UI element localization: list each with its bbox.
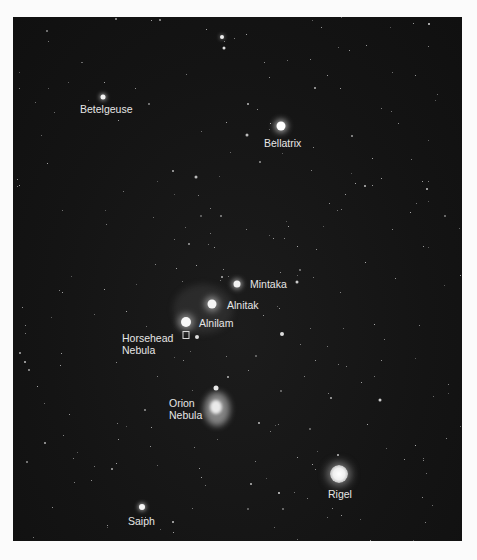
label-bellatrix: Bellatrix	[264, 137, 301, 149]
star-alnitak	[208, 300, 217, 309]
star-rigel	[330, 465, 348, 483]
orion-star-field-photo: Betelgeuse Bellatrix Mintaka Alnitak Aln…	[13, 17, 462, 541]
label-orion-nebula-line2: Nebula	[169, 409, 202, 421]
star-mintaka	[234, 281, 241, 288]
label-orion-nebula-line1: Orion	[169, 397, 195, 409]
label-horsehead-line2: Nebula	[122, 344, 155, 356]
star-near-horsehead	[195, 335, 199, 339]
star-bellatrix	[277, 122, 286, 131]
star-minor	[296, 281, 299, 284]
star-saiph	[139, 504, 145, 510]
orion-nebula-core	[210, 400, 222, 414]
star-right-of-belt	[280, 332, 284, 336]
label-horsehead-line1: Horsehead	[122, 332, 173, 344]
label-alnitak: Alnitak	[227, 299, 259, 311]
star-minor	[379, 399, 382, 402]
star-minor	[195, 176, 198, 179]
star-minor	[246, 134, 249, 137]
label-mintaka: Mintaka	[250, 278, 287, 290]
label-saiph: Saiph	[128, 515, 155, 527]
horsehead-nebula-marker	[183, 331, 190, 339]
star-above-nebula	[214, 386, 219, 391]
label-rigel: Rigel	[328, 488, 352, 500]
star-betelgeuse	[101, 95, 106, 100]
label-alnilam: Alnilam	[199, 317, 233, 329]
star-top-pair-1	[220, 35, 224, 39]
star-top-pair-2	[223, 47, 226, 50]
label-betelgeuse: Betelgeuse	[80, 103, 133, 115]
star-alnilam	[181, 317, 191, 327]
